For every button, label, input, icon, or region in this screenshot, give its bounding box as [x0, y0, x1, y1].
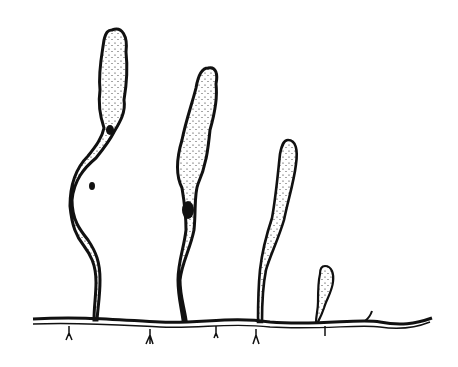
frond-1 [70, 29, 127, 320]
rhizoids [66, 326, 325, 344]
frond-2 [178, 68, 217, 320]
frond-3 [258, 140, 297, 322]
frond-4 [316, 266, 333, 322]
algae-drawing [0, 0, 458, 367]
illustration [0, 0, 458, 367]
